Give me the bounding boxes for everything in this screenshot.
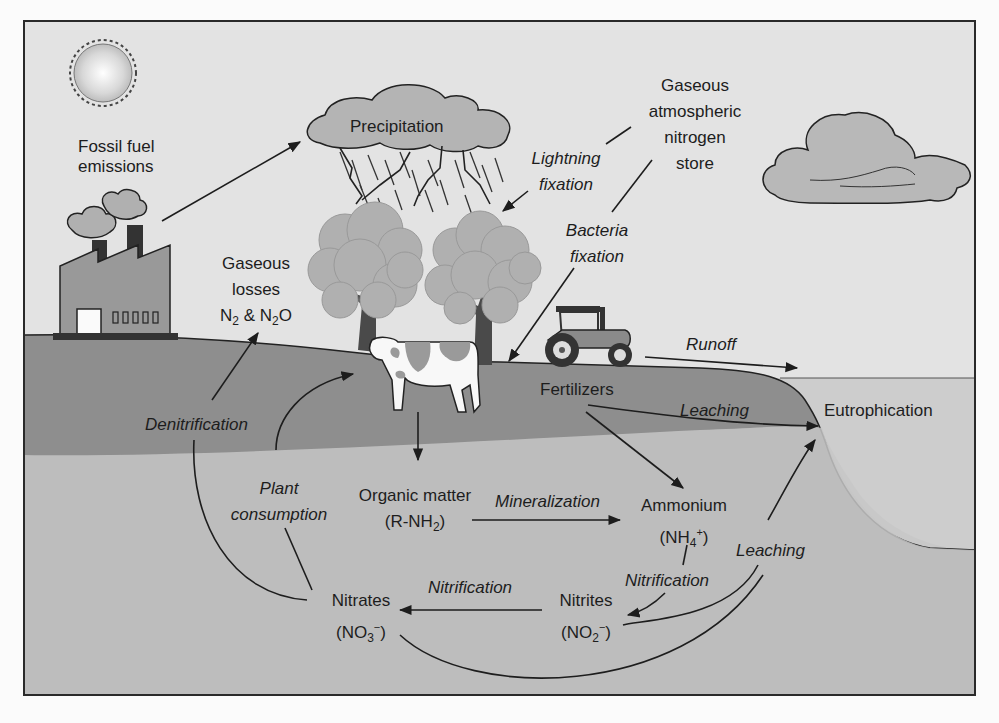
label-runoff: Runoff xyxy=(686,335,736,355)
formula-no3-minus: (NO3−) xyxy=(332,614,391,651)
formula-n2-n2o: N2 & N2O xyxy=(220,303,292,334)
label-bacteria-fixation: Bacteria fixation xyxy=(566,218,628,270)
label-ammonium: Ammonium (NH4+) xyxy=(641,493,727,556)
label-precipitation: Precipitation xyxy=(350,117,444,137)
label-mineralization: Mineralization xyxy=(495,492,600,512)
formula-nh4-plus: (NH4+) xyxy=(641,519,727,556)
label-gaseous-losses: Gaseous losses N2 & N2O xyxy=(220,251,292,334)
label-nitrites: Nitrites (NO2−) xyxy=(560,588,613,651)
formula-r-nh2: (R-NH2) xyxy=(359,509,471,540)
formula-no2-minus: (NO2−) xyxy=(560,614,613,651)
label-nitrification-bottom: Nitrification xyxy=(428,578,512,598)
label-plant-consumption: Plant consumption xyxy=(231,476,327,528)
label-gaseous-atmospheric-nitrogen-store: Gaseous atmospheric nitrogen store xyxy=(649,73,742,177)
label-fertilizers: Fertilizers xyxy=(540,380,614,400)
label-nitrification-right: Nitrification xyxy=(625,571,709,591)
label-organic-matter: Organic matter (R-NH2) xyxy=(359,483,471,540)
label-denitrification: Denitrification xyxy=(145,415,248,435)
label-leaching-top: Leaching xyxy=(680,401,749,421)
label-lightning-fixation: Lightning fixation xyxy=(531,146,600,198)
label-nitrates: Nitrates (NO3−) xyxy=(332,588,391,651)
nitrogen-cycle-diagram: Fossil fuel emissions Precipitation Gase… xyxy=(0,0,999,723)
label-fossil-fuel: Fossil fuel emissions xyxy=(78,137,155,177)
label-leaching-right: Leaching xyxy=(736,541,805,561)
label-eutrophication: Eutrophication xyxy=(824,401,933,421)
